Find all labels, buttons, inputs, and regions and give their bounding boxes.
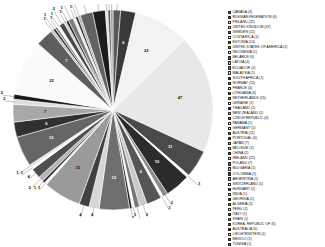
legend-swatch-icon	[228, 31, 231, 34]
pie-label-leader-line	[29, 173, 37, 179]
legend-swatch-icon	[228, 41, 231, 44]
legend-swatch-icon	[228, 132, 231, 135]
pie-slice-label: 11	[168, 144, 173, 149]
legend-swatch-icon	[228, 193, 231, 196]
legend-swatch-icon	[228, 102, 231, 105]
legend-swatch-icon	[228, 172, 231, 175]
pie-slice-label: 1	[44, 16, 47, 21]
legend-swatch-icon	[228, 167, 231, 170]
pie-slice-label: 2	[28, 185, 31, 190]
pie-label-leader-line	[97, 4, 99, 12]
legend-swatch-icon	[228, 61, 231, 64]
pie-slice-label: 1	[51, 11, 54, 16]
legend-swatch-icon	[228, 233, 231, 236]
legend-swatch-icon	[228, 82, 231, 85]
pie-chart: 3622471111021632111244151124111267222271…	[0, 4, 226, 218]
legend-swatch-icon	[228, 238, 231, 241]
legend-item[interactable]: TUNISIA (1)	[228, 242, 325, 247]
legend-swatch-icon	[228, 112, 231, 115]
legend-swatch-icon	[228, 203, 231, 206]
pie-slice-label: 2	[140, 217, 143, 218]
pie-slice-label: 2	[3, 96, 6, 101]
pie-label-leader-line	[51, 20, 57, 28]
pie-slice-label: 22	[49, 78, 54, 83]
legend-swatch-icon	[228, 218, 231, 221]
legend-swatch-icon	[228, 213, 231, 216]
pie-slice-label: 2	[63, 4, 66, 5]
pie-slice-label: 1	[38, 185, 41, 190]
legend-swatch-icon	[228, 122, 231, 125]
legend-swatch-icon	[228, 87, 231, 90]
legend-swatch-icon	[228, 46, 231, 49]
pie-slice-label: 1	[34, 185, 37, 190]
legend-swatch-icon	[228, 188, 231, 191]
legend-swatch-icon	[228, 152, 231, 155]
legend-swatch-icon	[228, 92, 231, 95]
legend-swatch-icon	[228, 183, 231, 186]
pie-label-leader-line	[62, 10, 68, 22]
pie-slice-label: 1	[168, 205, 171, 210]
legend-swatch-icon	[228, 51, 231, 54]
pie-slice-label: 12	[112, 175, 117, 180]
legend-swatch-icon	[228, 198, 231, 201]
pie-label-leader-line	[71, 10, 75, 19]
pie-slice-label: 4	[91, 212, 94, 217]
pie-label-leader-line	[61, 14, 66, 23]
legend-swatch-icon	[228, 97, 231, 100]
pie-slice-label: 1	[134, 212, 137, 217]
chart-legend: CANADA (3)RUSSIAN FEDERATION (6)FINLAND …	[228, 10, 325, 226]
pie-slice-label: 1	[198, 181, 201, 186]
legend-swatch-icon	[228, 157, 231, 160]
legend-swatch-icon	[228, 142, 231, 145]
pie-slice-label: 4	[28, 174, 31, 179]
legend-swatch-icon	[228, 117, 231, 120]
pie-chart-svg: 3622471111021632111244151124111267222271…	[0, 4, 226, 218]
legend-swatch-icon	[228, 21, 231, 24]
legend-swatch-icon	[228, 56, 231, 59]
pie-slice-label: 2	[1, 90, 4, 95]
pie-label-leader-line	[74, 4, 80, 17]
legend-swatch-icon	[228, 177, 231, 180]
legend-swatch-icon	[228, 228, 231, 231]
legend-swatch-icon	[228, 223, 231, 226]
legend-swatch-icon	[228, 127, 231, 130]
legend-swatch-icon	[228, 137, 231, 140]
pie-slice-label: 2	[53, 6, 56, 11]
legend-swatch-icon	[228, 36, 231, 39]
legend-swatch-icon	[228, 77, 231, 80]
legend-swatch-icon	[228, 26, 231, 29]
legend-label: TUNISIA (1)	[232, 242, 251, 247]
legend-swatch-icon	[228, 162, 231, 165]
pie-slice-label: 5	[83, 4, 86, 5]
pie-slice-label: 1	[71, 4, 74, 5]
legend-swatch-icon	[228, 16, 231, 19]
pie-slice-label: 3	[146, 212, 149, 217]
pie-label-leader-line	[4, 101, 14, 102]
pie-slice-label: 2	[171, 200, 174, 205]
legend-swatch-icon	[228, 11, 231, 14]
legend-swatch-icon	[228, 107, 231, 110]
pie-label-leader-line	[72, 5, 77, 17]
pie-label-leader-line	[84, 5, 87, 15]
pie-slice-label: 47	[178, 95, 183, 100]
legend-swatch-icon	[228, 208, 231, 211]
legend-swatch-icon	[228, 147, 231, 150]
pie-slice-label: 15	[76, 165, 81, 170]
legend-swatch-icon	[228, 66, 231, 69]
pie-slice-label: 1	[61, 5, 64, 10]
legend-swatch-icon	[228, 71, 231, 74]
pie-slice-label: 22	[144, 48, 149, 53]
pie-slice-label: 12	[49, 135, 54, 140]
pie-label-leader-line	[45, 21, 53, 31]
legend-swatch-icon	[228, 243, 231, 246]
pie-slice-label: 1	[44, 12, 47, 17]
pie-slice-label: 10	[155, 159, 160, 164]
